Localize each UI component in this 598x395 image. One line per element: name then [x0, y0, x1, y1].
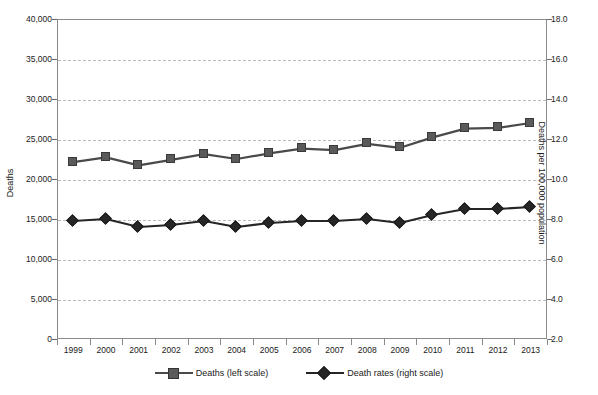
plot-area: [57, 19, 547, 339]
data-point-marker: [395, 142, 404, 151]
legend-item-death-rates: Death rates (right scale): [306, 366, 443, 380]
x-axis-tick: [220, 339, 221, 345]
data-point-marker: [460, 123, 469, 132]
gridline: [58, 60, 546, 61]
y-axis-right-tick-label: 4.0: [551, 295, 595, 304]
y-axis-right-tick: [547, 59, 552, 60]
y-axis-right-tick: [547, 219, 552, 220]
y-axis-left-tick: [52, 99, 57, 100]
data-point-marker: [297, 143, 306, 152]
y-axis-left-tick-label: 5,000: [2, 295, 52, 304]
square-marker-icon: [155, 366, 193, 380]
gridline: [58, 180, 546, 181]
chart-legend: Deaths (left scale) Death rates (right s…: [0, 366, 598, 380]
data-point-marker: [362, 138, 371, 147]
y-axis-left-tick-label: 40,000: [2, 15, 52, 24]
y-axis-left-title: Deaths: [5, 153, 15, 213]
data-point-marker: [264, 148, 273, 157]
y-axis-right-tick-label: 8.0: [551, 215, 595, 224]
data-point-marker: [427, 132, 436, 141]
y-axis-right-tick: [547, 179, 552, 180]
y-axis-left-tick: [52, 59, 57, 60]
x-axis-tick: [384, 339, 385, 345]
y-axis-right-tick-label: 2.0: [551, 335, 595, 344]
data-point-marker: [101, 152, 110, 161]
data-point-marker: [525, 118, 534, 127]
y-axis-right-tick: [547, 99, 552, 100]
y-axis-right-title: Deaths per 100,000 population: [537, 113, 547, 253]
x-axis-tick: [547, 339, 548, 345]
x-axis-tick: [351, 339, 352, 345]
legend-item-deaths: Deaths (left scale): [155, 366, 269, 380]
gridline: [58, 140, 546, 141]
x-axis-tick: [318, 339, 319, 345]
y-axis-left-tick-label: 35,000: [2, 55, 52, 64]
y-axis-left-tick: [52, 19, 57, 20]
x-axis-tick: [286, 339, 287, 345]
y-axis-right-tick-label: 16.0: [551, 55, 595, 64]
y-axis-left-tick-label: 0: [2, 335, 52, 344]
data-point-marker: [166, 154, 175, 163]
y-axis-right-tick-label: 10.0: [551, 175, 595, 184]
x-axis-tick: [416, 339, 417, 345]
x-axis-tick: [188, 339, 189, 345]
x-axis-tick: [90, 339, 91, 345]
x-axis-tick-label: 2013: [511, 346, 551, 355]
y-axis-right-tick-label: 6.0: [551, 255, 595, 264]
y-axis-right-tick: [547, 139, 552, 140]
x-axis-tick: [514, 339, 515, 345]
y-axis-right-tick-label: 12.0: [551, 135, 595, 144]
x-axis-tick: [122, 339, 123, 345]
data-point-marker: [68, 157, 77, 166]
y-axis-right-tick-label: 18.0: [551, 15, 595, 24]
diamond-marker-icon: [306, 366, 344, 380]
x-axis-tick: [449, 339, 450, 345]
data-point-marker: [199, 149, 208, 158]
y-axis-left-tick: [52, 259, 57, 260]
y-axis-left-tick-label: 10,000: [2, 255, 52, 264]
y-axis-left-tick-label: 15,000: [2, 215, 52, 224]
y-axis-left-tick: [52, 139, 57, 140]
y-axis-left-tick: [52, 299, 57, 300]
y-axis-left-tick: [52, 179, 57, 180]
x-axis-tick: [253, 339, 254, 345]
x-axis-tick: [482, 339, 483, 345]
y-axis-right-tick: [547, 19, 552, 20]
gridline: [58, 100, 546, 101]
y-axis-left-tick: [52, 219, 57, 220]
x-axis-tick: [155, 339, 156, 345]
legend-label-deaths: Deaths (left scale): [196, 368, 269, 378]
y-axis-right-tick-label: 14.0: [551, 95, 595, 104]
data-point-marker: [493, 122, 502, 131]
legend-label-death-rates: Death rates (right scale): [347, 368, 443, 378]
y-axis-left-tick-label: 25,000: [2, 135, 52, 144]
gridline: [58, 260, 546, 261]
gridline: [58, 300, 546, 301]
y-axis-right-tick: [547, 299, 552, 300]
data-point-marker: [329, 145, 338, 154]
data-point-marker: [231, 154, 240, 163]
chart-container: 05,00010,00015,00020,00025,00030,00035,0…: [0, 0, 598, 395]
y-axis-right-tick: [547, 259, 552, 260]
y-axis-left-tick-label: 30,000: [2, 95, 52, 104]
data-point-marker: [133, 160, 142, 169]
x-axis-tick: [57, 339, 58, 345]
